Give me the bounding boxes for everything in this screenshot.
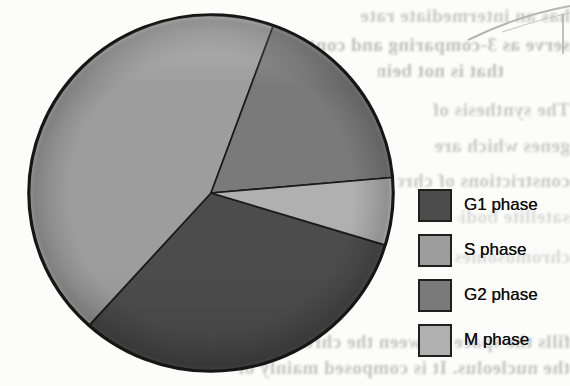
legend-swatch-g2-phase xyxy=(418,279,452,312)
legend-swatch-s-phase xyxy=(418,234,452,267)
scanned-page: has an intermediate rate serve as 3-comp… xyxy=(0,0,570,386)
legend-label-s-phase: S phase xyxy=(464,240,526,260)
legend-label-g2-phase: G2 phase xyxy=(464,285,538,305)
legend-item-g2-phase: G2 phase xyxy=(418,278,538,312)
legend-label-m-phase: M phase xyxy=(464,330,529,350)
legend-swatch-g1-phase xyxy=(418,189,452,222)
legend-item-m-phase: M phase xyxy=(418,323,538,357)
pie-rim-overlay xyxy=(29,15,393,371)
chart-legend: G1 phase S phase G2 phase M phase xyxy=(418,188,538,368)
legend-item-g1-phase: G1 phase xyxy=(418,188,538,222)
legend-swatch-m-phase xyxy=(418,324,452,357)
legend-item-s-phase: S phase xyxy=(418,233,538,267)
legend-label-g1-phase: G1 phase xyxy=(464,195,538,215)
